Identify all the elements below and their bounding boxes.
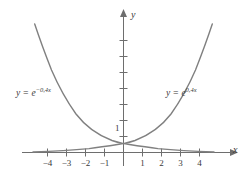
x-tick-label: 4: [192, 158, 208, 168]
y-axis-arrowhead: [120, 9, 127, 17]
y-axis-label: y: [131, 9, 135, 20]
x-tick-label: −4: [40, 158, 56, 168]
x-tick-label: 3: [173, 158, 189, 168]
curve-label-growth: y = e0,4x: [166, 86, 197, 98]
x-tick-label: 1: [135, 158, 151, 168]
curve-label-decay-base: y = e: [16, 88, 36, 98]
y-axis-unit-label: 1: [115, 123, 120, 133]
curve-label-growth-base: y = e: [166, 88, 186, 98]
exponential-functions-chart: y x 1 −4 −3 −2 −1 1 2 3 4 y = e−0,4x y =…: [0, 0, 246, 179]
curve-label-decay-exponent: −0,4x: [36, 86, 51, 93]
x-axis-label: x: [233, 144, 237, 155]
x-tick-label: −3: [59, 158, 75, 168]
x-tick-label: −1: [97, 158, 113, 168]
curve-label-decay: y = e−0,4x: [16, 86, 51, 98]
x-tick-label: 2: [154, 158, 170, 168]
curve-label-growth-exponent: 0,4x: [186, 86, 197, 93]
x-tick-label: −2: [78, 158, 94, 168]
